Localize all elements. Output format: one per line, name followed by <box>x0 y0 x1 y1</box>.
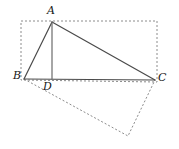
vertex-label-c: C <box>158 72 166 83</box>
geometry-canvas <box>0 0 179 149</box>
segment-AB <box>24 22 52 79</box>
vertex-label-a: A <box>47 5 55 16</box>
vertex-label-b: B <box>13 70 21 81</box>
vertex-label-d: D <box>43 81 52 92</box>
segment-AC <box>52 22 155 80</box>
geometry-figure: A B C D <box>0 0 179 149</box>
dashed-rectangle <box>21 21 157 82</box>
